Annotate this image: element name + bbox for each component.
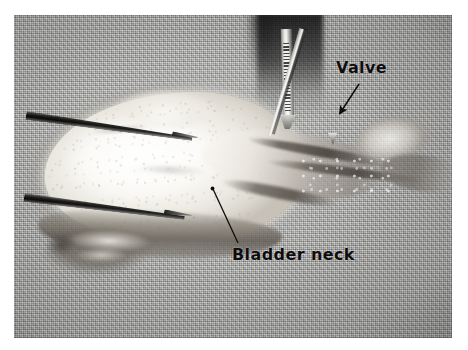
annotation-label-valve: Valve [336,58,387,77]
inferior-tissue-highlight-2 [74,247,128,263]
figure-root: Valve Bladder neck [0,0,468,350]
distal-tissue-speckle [300,155,396,195]
instrument-shadow-secondary [250,15,272,75]
inferior-tissue-shadow [38,233,78,263]
annotation-label-bladder-neck: Bladder neck [232,245,355,264]
